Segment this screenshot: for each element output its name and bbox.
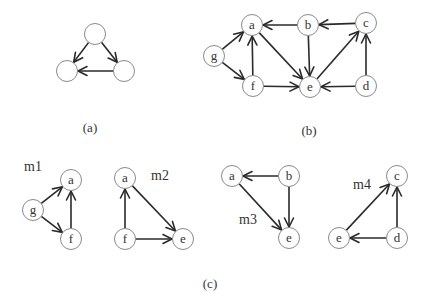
edge-f-to-a bbox=[248, 36, 257, 76]
node-f: f bbox=[61, 229, 82, 250]
edge-b-to-e bbox=[285, 187, 294, 228]
edge-b-to-a bbox=[263, 21, 298, 30]
node-r bbox=[114, 61, 135, 82]
panel-caption: (a) bbox=[83, 120, 97, 135]
node-f: f bbox=[115, 229, 136, 250]
edge-t-to-l bbox=[74, 42, 89, 62]
edge-f-to-a bbox=[121, 189, 130, 229]
edge-a-to-e bbox=[259, 33, 302, 79]
motif-label: m2 bbox=[151, 168, 169, 183]
edge-b-to-a bbox=[243, 172, 279, 181]
edge-b-to-e bbox=[305, 35, 314, 76]
node-label: e bbox=[286, 230, 292, 245]
panel-m2: afem2 bbox=[115, 168, 194, 250]
node-label: a bbox=[249, 17, 255, 32]
edge-r-to-l bbox=[78, 67, 114, 76]
node-e: e bbox=[329, 228, 350, 249]
node-a: a bbox=[115, 168, 136, 189]
node-e: e bbox=[173, 229, 194, 250]
node-e: e bbox=[300, 77, 321, 98]
edge-g-to-f bbox=[222, 62, 244, 79]
edge-c-to-b bbox=[319, 20, 356, 29]
node-b: b bbox=[279, 166, 300, 187]
node-label: f bbox=[69, 231, 74, 246]
node-label: c bbox=[394, 168, 400, 183]
node-label: b bbox=[305, 17, 312, 32]
node-label: e bbox=[180, 231, 186, 246]
edge-g-to-a bbox=[222, 32, 243, 49]
node-label: e bbox=[336, 230, 342, 245]
node-d: d bbox=[356, 76, 377, 97]
edge-d-to-c bbox=[393, 187, 402, 228]
node-t bbox=[85, 24, 106, 45]
edge-f-to-e bbox=[136, 235, 173, 244]
node-g: g bbox=[23, 200, 44, 221]
edge-f-to-e bbox=[263, 82, 299, 91]
edge-d-to-e bbox=[350, 234, 387, 243]
node-label: f bbox=[123, 231, 128, 246]
node-d: d bbox=[387, 228, 408, 249]
node-label: d bbox=[363, 78, 370, 93]
panel-b: abcgfed(b) bbox=[204, 13, 377, 138]
motif-label: m3 bbox=[239, 212, 257, 227]
node-b: b bbox=[298, 15, 319, 36]
edge-g-to-a bbox=[41, 187, 62, 204]
node-label: f bbox=[251, 78, 256, 93]
node-a: a bbox=[222, 166, 243, 187]
panel-m1: agfm1 bbox=[23, 159, 82, 250]
node-label: a bbox=[229, 168, 235, 183]
edge-f-to-a bbox=[67, 191, 76, 229]
node-label: e bbox=[307, 79, 313, 94]
node-l bbox=[57, 61, 78, 82]
motif-label: m1 bbox=[24, 159, 42, 174]
node-label: c bbox=[363, 15, 369, 30]
node-f: f bbox=[243, 76, 264, 97]
node-label: d bbox=[394, 230, 401, 245]
node-c: c bbox=[356, 13, 377, 34]
edge-d-to-e bbox=[321, 82, 356, 91]
edge-a-to-e bbox=[132, 186, 175, 231]
edge-g-to-f bbox=[41, 216, 62, 232]
edge-t-to-r bbox=[101, 42, 117, 62]
node-label: g bbox=[211, 48, 218, 63]
panel-caption: (b) bbox=[301, 123, 316, 138]
node-a: a bbox=[242, 15, 263, 36]
node-label: a bbox=[122, 170, 128, 185]
edge-d-to-c bbox=[362, 34, 371, 76]
panel-m4: cedm4 bbox=[329, 166, 408, 249]
panel-m3: abem3 bbox=[222, 166, 300, 249]
figure-caption: (c) bbox=[203, 276, 217, 291]
motif-label: m4 bbox=[353, 177, 371, 192]
node-g: g bbox=[204, 46, 225, 67]
node-a: a bbox=[61, 170, 82, 191]
panel-a: (a) bbox=[57, 24, 135, 135]
network-motif-diagram: (a)abcgfed(b)agfm1afem2abem3cedm4(c) bbox=[0, 0, 427, 308]
node-label: b bbox=[286, 168, 293, 183]
node-c: c bbox=[387, 166, 408, 187]
node-e: e bbox=[279, 228, 300, 249]
edge-e-to-c bbox=[317, 31, 359, 79]
node-label: g bbox=[30, 202, 37, 217]
node-label: a bbox=[68, 172, 74, 187]
